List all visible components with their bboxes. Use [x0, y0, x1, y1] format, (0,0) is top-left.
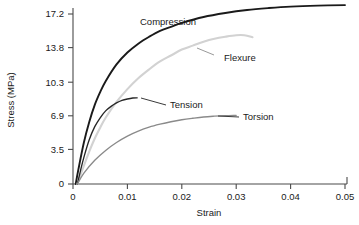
series-label-tension: Tension: [170, 99, 203, 110]
x-axis-group: 00.010.020.030.040.05: [70, 177, 354, 202]
series-annotation-labels: CompressionFlexureTensionTorsion: [140, 16, 274, 122]
data-curves: [76, 5, 345, 184]
series-label-torsion: Torsion: [243, 111, 274, 122]
y-axis-tick-labels: 03.56.910.313.817.2: [46, 8, 65, 189]
y-tick-label: 3.5: [51, 144, 64, 155]
y-tick-label: 6.9: [51, 110, 64, 121]
y-axis-group: 03.56.910.313.817.2: [46, 8, 74, 189]
x-tick-label: 0.01: [118, 191, 137, 202]
x-tick-label: 0.04: [281, 191, 300, 202]
y-tick-label: 0: [59, 178, 64, 189]
leader-line-flexure: [197, 48, 214, 55]
x-axis-title: Strain: [197, 207, 222, 218]
x-tick-label: 0: [70, 191, 75, 202]
y-tick-label: 13.8: [46, 42, 65, 53]
leader-line-tension: [141, 98, 166, 105]
stress-strain-chart: 03.56.910.313.817.2 00.010.020.030.040.0…: [0, 0, 359, 225]
x-tick-label: 0.03: [227, 191, 246, 202]
y-tick-label: 17.2: [46, 8, 65, 19]
series-label-compression: Compression: [140, 16, 196, 27]
series-label-flexure: Flexure: [224, 52, 256, 63]
curve-tension: [77, 98, 137, 184]
x-axis-tick-labels: 00.010.020.030.040.05: [70, 191, 354, 202]
y-axis-title: Stress (MPa): [5, 72, 16, 127]
curve-compression: [76, 5, 345, 184]
y-axis-ticks: [68, 14, 73, 184]
leader-line-torsion: [218, 116, 239, 117]
y-tick-label: 10.3: [46, 77, 65, 88]
chart-svg: 03.56.910.313.817.2 00.010.020.030.040.0…: [0, 0, 359, 225]
x-tick-label: 0.05: [336, 191, 355, 202]
x-axis-ticks: [73, 184, 345, 189]
x-tick-label: 0.02: [173, 191, 192, 202]
